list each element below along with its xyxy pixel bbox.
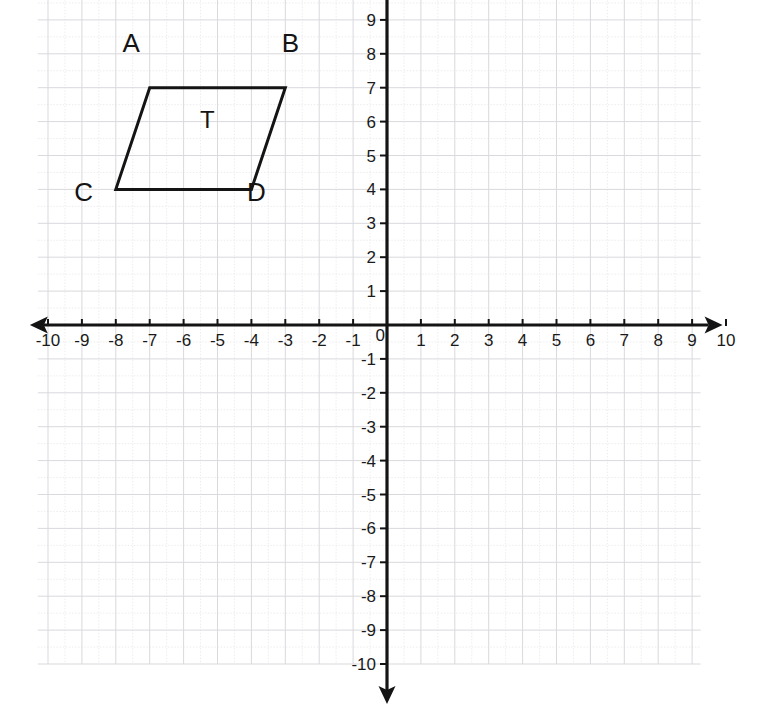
x-tick-label-6: 6 [586,331,595,350]
y-tick-label-9: 9 [367,11,376,30]
y-tick-label-neg7: -7 [361,553,376,572]
y-tick-label-5: 5 [367,147,376,166]
x-tick-label-neg7: -7 [142,331,157,350]
y-tick-label-4: 4 [367,180,376,199]
coordinate-plane-svg: -10-9-8-7-6-5-4-3-2-112345678910 1098765… [0,0,768,714]
vertex-label-C: C [74,177,93,207]
y-tick-label-neg2: -2 [361,384,376,403]
y-tick-label-2: 2 [367,248,376,267]
y-tick-label-6: 6 [367,113,376,132]
shape-interior-label-T: T [200,106,215,133]
x-tick-label-neg1: -1 [346,331,361,350]
x-tick-label-8: 8 [653,331,662,350]
x-tick-label-neg10: -10 [36,331,61,350]
coordinate-plane-figure: -10-9-8-7-6-5-4-3-2-112345678910 1098765… [0,0,768,714]
x-tick-label-5: 5 [552,331,561,350]
y-tick-label-8: 8 [367,45,376,64]
y-tick-label-neg5: -5 [361,486,376,505]
x-tick-label-neg4: -4 [244,331,259,350]
y-tick-label-neg6: -6 [361,519,376,538]
y-tick-label-neg10: -10 [351,655,376,674]
x-tick-label-neg9: -9 [74,331,89,350]
x-tick-label-3: 3 [484,331,493,350]
x-tick-label-neg8: -8 [108,331,123,350]
y-tick-label-7: 7 [367,79,376,98]
y-tick-label-neg1: -1 [361,350,376,369]
x-tick-label-neg6: -6 [176,331,191,350]
x-tick-label-1: 1 [416,331,425,350]
y-tick-label-neg4: -4 [361,452,376,471]
y-tick-label-neg3: -3 [361,418,376,437]
x-tick-label-4: 4 [518,331,527,350]
vertex-label-B: B [282,28,299,58]
origin-tick-label: 0 [376,326,385,345]
shape-annotations: T [200,106,215,133]
x-tick-label-neg2: -2 [312,331,327,350]
x-tick-label-neg5: -5 [210,331,225,350]
figure-background [0,0,768,714]
y-tick-label-3: 3 [367,214,376,233]
origin-label: 0 [376,326,385,345]
x-tick-label-9: 9 [687,331,696,350]
x-tick-label-7: 7 [620,331,629,350]
y-tick-label-1: 1 [367,282,376,301]
x-tick-label-neg3: -3 [278,331,293,350]
y-tick-label-neg8: -8 [361,587,376,606]
vertex-label-A: A [122,28,140,58]
y-tick-label-neg9: -9 [361,621,376,640]
x-tick-label-2: 2 [450,331,459,350]
vertex-label-D: D [247,177,266,207]
x-tick-label-10: 10 [717,331,736,350]
